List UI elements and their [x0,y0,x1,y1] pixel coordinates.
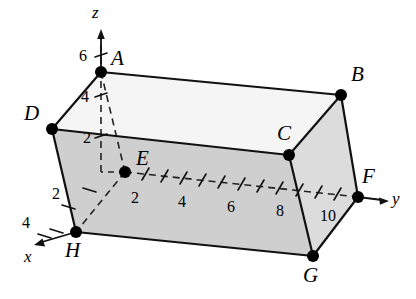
tick-label-x-2: 2 [52,186,60,202]
vertex-label-g: G [303,265,318,286]
vertex-dot-a [95,66,107,78]
vertex-dot-d [46,123,58,135]
axis-x-arrowhead [34,239,45,247]
axis-label-y: y [392,190,400,207]
vertex-dot-g [307,250,319,262]
tick-label-y-6: 6 [227,199,235,215]
axis-label-z: z [92,4,99,21]
axis-z-arrowhead [97,29,105,39]
coordinate-box-figure: A B C D E F G H x y z 2 4 6 2 4 6 8 10 2… [0,0,416,299]
vertex-dot-f [352,191,364,203]
vertex-dot-c [283,149,295,161]
tick-x-4 [38,234,51,238]
vertex-label-f: F [362,166,375,187]
tick-label-y-10: 10 [320,208,336,224]
tick-label-x-4: 4 [22,215,30,231]
axis-label-x: x [24,248,32,265]
tick-x-3 [50,229,63,233]
tick-label-z-4: 4 [81,89,89,105]
vertex-label-a: A [111,48,124,69]
vertex-label-c: C [277,123,291,144]
vertex-label-h: H [65,240,80,261]
tick-label-y-8: 8 [276,203,284,219]
axis-y-arrowhead [379,197,389,204]
vertex-dot-h [70,226,82,238]
tick-label-y-4: 4 [178,194,186,210]
figure-canvas [0,0,416,299]
vertex-label-d: D [24,103,39,124]
tick-label-y-2: 2 [131,190,139,206]
vertex-dot-b [335,89,347,101]
tick-label-z-6: 6 [79,48,87,64]
vertex-dot-e [119,166,131,178]
tick-label-z-2: 2 [83,130,91,146]
vertex-label-e: E [136,148,149,169]
vertex-label-b: B [351,64,364,85]
